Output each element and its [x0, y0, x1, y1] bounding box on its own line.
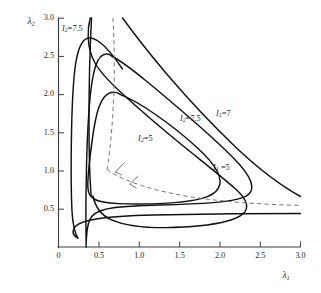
curve-label-i1-5-value: 5 — [226, 163, 230, 172]
y-tick-label-1.0: 1.0 — [44, 166, 54, 175]
curve-label-i1-5: I1 =5 — [212, 163, 230, 173]
curve-label-i2-7p5-top: I2=7.5 — [61, 24, 83, 34]
y-axis-title-subscript: 2 — [32, 20, 35, 27]
x-tick-label-1.0: 1.0 — [134, 251, 144, 260]
invariant-contour-figure: 0 0.5 1.0 1.5 2.0 2.5 3.0 0.5 1.0 1.5 2.… — [0, 0, 321, 293]
curve-label-i2-5-value: 5 — [148, 134, 152, 143]
x-axis-title: λ1 — [281, 270, 289, 281]
y-tick-label-3.0: 3.0 — [44, 13, 54, 22]
curve-label-i1-7: I1=7 — [215, 109, 231, 119]
y-tick-label-0.5: 0.5 — [44, 204, 54, 213]
x-tick-label-3.0: 3.0 — [295, 251, 305, 260]
arrowhead-lower-icon — [130, 176, 138, 188]
curve-i1-7-lower-branch — [73, 214, 300, 239]
curve-i2-5 — [88, 92, 220, 204]
arrowhead-upper-icon — [116, 163, 125, 175]
x-axis-tick-labels: 0 0.5 1.0 1.5 2.0 2.5 3.0 — [56, 251, 305, 260]
y-tick-label-1.5: 1.5 — [44, 128, 54, 137]
x-tick-label-0.5: 0.5 — [94, 251, 104, 260]
curve-label-i2-5: I2=5 — [137, 134, 153, 144]
y-axis-tick-labels: 0.5 1.0 1.5 2.0 2.5 3.0 — [44, 13, 54, 213]
x-tick-label-0: 0 — [56, 251, 60, 260]
x-tick-label-1.5: 1.5 — [175, 251, 185, 260]
x-axis-title-subscript: 1 — [287, 274, 290, 281]
curve-label-i2-7p5-top-value: 7.5 — [72, 24, 82, 33]
curve-label-i1-7-value: 7 — [226, 109, 230, 118]
y-tick-label-2.5: 2.5 — [44, 51, 54, 60]
y-tick-label-2.0: 2.0 — [44, 89, 54, 98]
y-axis-ticks — [59, 18, 65, 209]
x-axis-ticks — [59, 242, 301, 248]
x-tick-label-2.0: 2.0 — [215, 251, 225, 260]
curve-label-i2-7p5-right-value: 7.5 — [190, 114, 200, 123]
x-tick-label-2.5: 2.5 — [255, 251, 265, 260]
contour-curves — [71, 18, 300, 247]
curve-label-i2-7p5-right: I2=7.5 — [179, 114, 201, 124]
y-axis-title: λ2 — [26, 16, 34, 27]
dashed-path-arrowheads — [116, 163, 139, 188]
